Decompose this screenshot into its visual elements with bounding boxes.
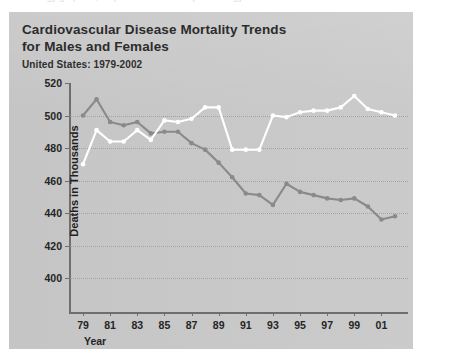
- data-point: [352, 94, 357, 99]
- data-point: [257, 193, 262, 198]
- data-point: [243, 147, 248, 152]
- series-males: [81, 97, 398, 222]
- page-title-line-1: Cardiovascular Disease Mortality Trends: [22, 21, 402, 38]
- x-axis-tick-label: 83: [131, 319, 143, 331]
- series-line: [83, 99, 395, 219]
- data-point: [176, 120, 181, 125]
- data-point: [81, 113, 86, 118]
- data-point: [379, 217, 384, 222]
- y-axis-tick-label: 500: [44, 110, 62, 122]
- data-point: [121, 123, 126, 128]
- data-point: [108, 139, 113, 144]
- data-point: [257, 147, 262, 152]
- x-axis-title: Year: [84, 335, 106, 347]
- data-point: [216, 160, 221, 165]
- data-point: [243, 191, 248, 196]
- data-point: [230, 175, 235, 180]
- y-axis-tick-label: 440: [44, 207, 62, 219]
- data-point: [338, 198, 343, 203]
- series-line: [83, 96, 395, 164]
- page-title: Cardiovascular Disease Mortality Trends …: [22, 21, 402, 55]
- data-point: [311, 193, 316, 198]
- x-axis-tick-label: 91: [240, 319, 252, 331]
- data-point: [81, 162, 86, 167]
- series-layer: [70, 83, 408, 313]
- data-point: [325, 196, 330, 201]
- x-axis-tick-label: 01: [376, 319, 388, 331]
- data-point: [149, 138, 154, 143]
- data-point: [176, 129, 181, 134]
- data-point: [298, 190, 303, 195]
- y-axis-tick-label: 480: [44, 142, 62, 154]
- clipped-header-text: ology graphics, maps and charts for epid…: [34, 0, 304, 3]
- data-point: [271, 203, 276, 208]
- x-axis-tick-label: 97: [321, 319, 333, 331]
- data-point: [325, 108, 330, 113]
- data-point: [189, 116, 194, 121]
- y-axis-tick-label: 400: [44, 272, 62, 284]
- page-subtitle: United States: 1979-2002: [22, 59, 142, 70]
- x-axis-tick-label: 87: [186, 319, 198, 331]
- data-point: [108, 120, 113, 125]
- x-axis-tick-label: 85: [159, 319, 171, 331]
- data-point: [121, 139, 126, 144]
- chart-page: ology graphics, maps and charts for epid…: [0, 0, 452, 360]
- x-axis-tick-label: 93: [267, 319, 279, 331]
- data-point: [284, 115, 289, 120]
- data-point: [94, 97, 99, 102]
- y-axis-tick-label: 520: [44, 77, 62, 89]
- data-point: [149, 131, 154, 136]
- data-point: [162, 129, 167, 134]
- data-point: [366, 204, 371, 209]
- data-point: [94, 128, 99, 133]
- plot-area: 400420440460480500520 798183858789919395…: [70, 83, 408, 278]
- data-point: [203, 147, 208, 152]
- y-axis-tick-label: 460: [44, 175, 62, 187]
- x-axis-tick-label: 79: [77, 319, 89, 331]
- x-axis-tick-label: 95: [294, 319, 306, 331]
- data-point: [284, 181, 289, 186]
- data-point: [135, 120, 140, 125]
- data-point: [352, 196, 357, 201]
- data-point: [216, 105, 221, 110]
- y-axis-tick-label: 420: [44, 240, 62, 252]
- data-point: [189, 141, 194, 146]
- data-point: [135, 128, 140, 133]
- data-point: [393, 113, 398, 118]
- data-point: [230, 147, 235, 152]
- data-point: [298, 110, 303, 115]
- data-point: [203, 105, 208, 110]
- x-axis-tick-label: 89: [213, 319, 225, 331]
- y-axis-title: Deaths in Thousands: [68, 125, 80, 236]
- data-point: [162, 118, 167, 123]
- data-point: [311, 108, 316, 113]
- x-axis-tick-label: 81: [104, 319, 116, 331]
- data-point: [379, 110, 384, 115]
- chart-panel: Cardiovascular Disease Mortality Trends …: [9, 12, 413, 349]
- data-point: [366, 107, 371, 112]
- data-point: [338, 105, 343, 110]
- series-females: [81, 94, 398, 167]
- data-point: [271, 113, 276, 118]
- page-title-line-2: for Males and Females: [22, 38, 402, 55]
- x-axis-tick-label: 99: [348, 319, 360, 331]
- data-point: [393, 214, 398, 219]
